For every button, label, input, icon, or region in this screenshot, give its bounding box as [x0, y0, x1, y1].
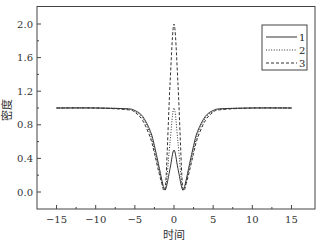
legend: 123: [262, 25, 307, 70]
x-tick-label: −15: [46, 214, 67, 225]
x-tick-label: 15: [285, 214, 298, 225]
x-tick-label: 5: [210, 214, 216, 225]
series-1-line: [57, 108, 292, 190]
series-3-line: [57, 24, 292, 191]
y-tick-label: 1.2: [17, 86, 33, 97]
y-tick-label: 1.6: [17, 52, 33, 63]
x-tick-label: 0: [171, 214, 177, 225]
series-layer: [57, 24, 292, 191]
x-tick-label: 10: [246, 214, 259, 225]
x-tick-label: −10: [85, 214, 106, 225]
y-tick-label: 2.0: [17, 19, 33, 30]
legend-label-1: 1: [299, 32, 305, 43]
x-axis-title: 时间: [163, 229, 185, 242]
legend-label-2: 2: [299, 45, 305, 56]
x-tick-label: −5: [127, 214, 142, 225]
legend-label-3: 3: [299, 58, 305, 69]
line-chart: −15−10−5051015 0.00.40.81.21.62.0 时间 密度 …: [0, 0, 317, 245]
y-tick-label: 0.0: [17, 187, 33, 198]
y-axis-title: 密度: [0, 99, 14, 121]
series-2-line: [57, 108, 292, 191]
y-tick-label: 0.8: [17, 119, 33, 130]
y-tick-label: 0.4: [17, 153, 33, 164]
x-axis: −15−10−5051015: [46, 205, 298, 225]
